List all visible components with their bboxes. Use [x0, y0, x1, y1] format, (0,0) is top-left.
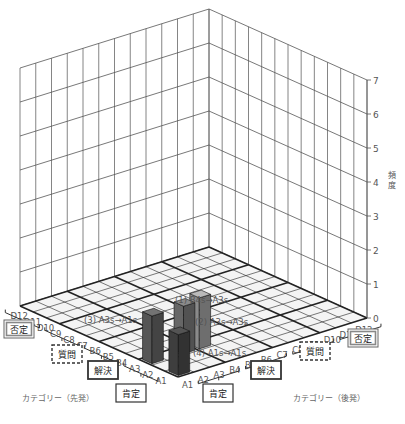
group-label: 肯定: [122, 388, 140, 399]
lead-group-box: 否定: [4, 320, 34, 338]
z-axis-label-1: 頻: [388, 170, 396, 180]
group-label: 肯定: [209, 388, 227, 399]
lead-group-box: 質問: [52, 345, 82, 363]
group-label: 質問: [306, 346, 324, 357]
z-tick-label: 0: [373, 314, 379, 324]
lead-group-box: 解決: [88, 361, 118, 379]
group-label: 否定: [354, 333, 372, 344]
group-label: 質問: [58, 349, 76, 360]
z-tick-label: 4: [373, 178, 379, 188]
lead-axis-label: カテゴリー（先発）: [22, 393, 94, 403]
z-tick-label: 6: [373, 110, 379, 120]
z-tick-label: 1: [373, 280, 379, 290]
lead-group-box: 肯定: [116, 384, 146, 402]
3d-bar-chart: 01234567 A1A2A3B4B5B6C7C8C9D10D11D12 A1A…: [0, 0, 405, 424]
trail-category-label: A1: [182, 380, 193, 390]
z-tick-label: 3: [373, 212, 379, 222]
group-label: 否定: [10, 324, 28, 335]
annotation-4: (4) A1s→A1s: [193, 348, 247, 358]
annotation-3: (3) A3s→A1s: [84, 315, 138, 325]
trail-group-box: 解決: [251, 361, 281, 379]
group-label: 解決: [94, 365, 112, 376]
z-tick-label: 2: [373, 246, 379, 256]
z-axis-ticks: 01234567: [367, 76, 379, 324]
bar: [143, 308, 164, 363]
z-axis-label-2: 度: [388, 180, 396, 190]
trail-group-box: 質問: [300, 342, 330, 360]
z-tick-label: 7: [373, 76, 379, 86]
trail-axis-label: カテゴリー（後発）: [293, 393, 365, 403]
annotation-2: (2) A3s→A3s: [195, 317, 249, 327]
group-label: 解決: [257, 365, 275, 376]
bar: [169, 327, 190, 376]
annotation-1: (1) B4s→A3s: [175, 295, 229, 305]
trail-group-box: 否定: [348, 329, 378, 347]
z-tick-label: 5: [373, 144, 379, 154]
trail-group-box: 肯定: [203, 384, 233, 402]
